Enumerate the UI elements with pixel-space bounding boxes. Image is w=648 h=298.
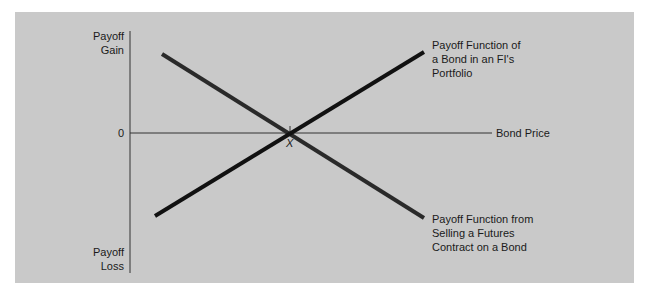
label-line: Loss <box>78 259 124 273</box>
futures-payoff-label: Payoff Function from Selling a Futures C… <box>432 212 533 254</box>
y-axis-top-label: Payoff Gain <box>78 29 124 57</box>
label-line: Payoff <box>78 245 124 259</box>
zero-label: 0 <box>100 126 124 140</box>
label-line: Gain <box>78 43 124 57</box>
label-line: Selling a Futures <box>432 226 533 240</box>
label-line: Payoff <box>78 29 124 43</box>
label-line: Payoff Function of <box>432 38 520 52</box>
label-line: Portfolio <box>432 66 520 80</box>
x-axis-label: Bond Price <box>496 126 550 140</box>
bond-payoff-label: Payoff Function of a Bond in an FI's Por… <box>432 38 520 80</box>
label-line: a Bond in an FI's <box>432 52 520 66</box>
crossing-point-label: X <box>286 136 293 150</box>
label-line: Contract on a Bond <box>432 240 533 254</box>
label-line: Payoff Function from <box>432 212 533 226</box>
y-axis-bottom-label: Payoff Loss <box>78 245 124 273</box>
